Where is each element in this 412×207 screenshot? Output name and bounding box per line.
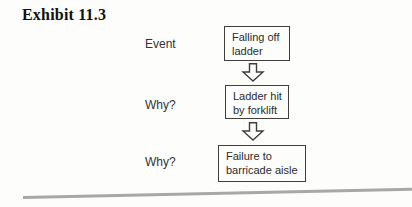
- down-arrow-icon: [241, 63, 265, 82]
- exhibit-page: Exhibit 11.3 Event Falling off ladder Wh…: [0, 0, 412, 207]
- flow-box-event: Falling off ladder: [224, 26, 290, 61]
- step-label-event: Event: [145, 37, 176, 51]
- step-label-why-1: Why?: [145, 98, 176, 112]
- step-label-why-2: Why?: [145, 155, 176, 169]
- exhibit-title: Exhibit 11.3: [22, 6, 106, 24]
- flow-box-why-2: Failure to barricade aisle: [218, 145, 306, 182]
- bottom-rule-divider: [23, 188, 412, 199]
- down-arrow-icon: [241, 122, 265, 141]
- flow-box-why-1: Ladder hit by forklift: [225, 85, 289, 119]
